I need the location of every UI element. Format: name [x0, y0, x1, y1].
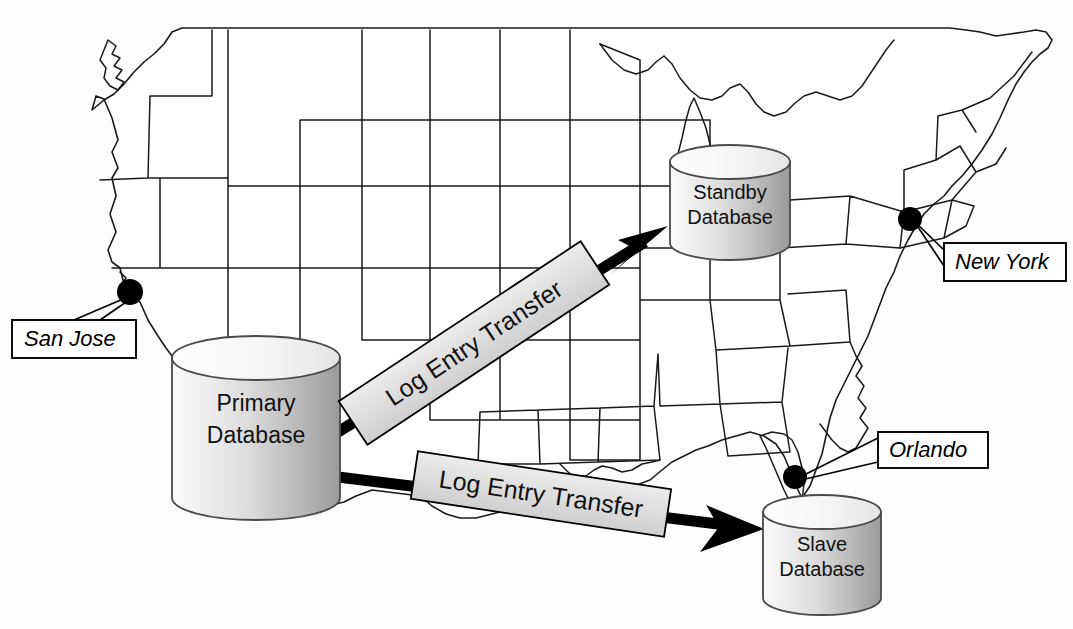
- orlando-dot: [783, 465, 807, 489]
- city-callout-san-jose[interactable]: San Jose: [12, 279, 143, 358]
- san-jose-dot: [117, 279, 143, 305]
- city-callout-orlando[interactable]: Orlando: [783, 432, 988, 489]
- city-callouts-layer: San Jose New York Orlando: [0, 0, 1073, 629]
- san-jose-label: San Jose: [24, 326, 116, 351]
- city-callout-new-york[interactable]: New York: [898, 207, 1066, 281]
- diagram-canvas: Standby Database Slave Database Primary …: [0, 0, 1073, 629]
- new-york-dot: [898, 207, 922, 231]
- orlando-label: Orlando: [889, 437, 967, 462]
- new-york-label: New York: [955, 249, 1050, 274]
